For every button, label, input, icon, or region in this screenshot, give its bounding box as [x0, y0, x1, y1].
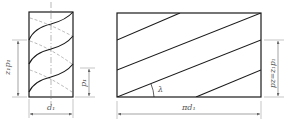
lead-dimension: z₁p₁	[3, 40, 27, 97]
cylinder-figure: z₁p₁ p₁ d₁	[3, 2, 95, 118]
unrolled-outline	[117, 13, 261, 97]
lead-dimension-right: pz=z₁p₁	[264, 40, 284, 97]
pitch-label: p₁	[79, 79, 88, 87]
lead-right-label: pz=z₁p₁	[268, 58, 277, 88]
circumference-label: πd₁	[181, 103, 196, 112]
lead-label: z₁p₁	[3, 59, 12, 76]
pitch-dimension: p₁	[75, 68, 95, 97]
unrolled-figure: λ πd₁ pz=z₁p₁	[117, 13, 284, 119]
angle-arc	[151, 84, 154, 97]
helix-diagram: z₁p₁ p₁ d₁ λ	[0, 0, 292, 131]
diameter-label: d₁	[47, 103, 55, 112]
circumference-dimension: πd₁	[117, 101, 261, 119]
angle-label: λ	[157, 85, 163, 94]
helix-lines	[117, 13, 261, 97]
